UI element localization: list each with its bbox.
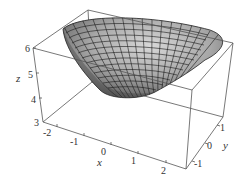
y-tick-0: 0 <box>207 140 212 151</box>
y-axis-label: y <box>222 139 228 151</box>
surface-plot: 6 5 4 3 z -2 -1 0 1 2 x -1 0 1 y <box>0 0 247 186</box>
z-tick-4: 4 <box>31 94 36 105</box>
plot-canvas: 6 5 4 3 z -2 -1 0 1 2 x -1 0 1 y <box>0 0 247 186</box>
x-tick-2: 2 <box>161 165 166 176</box>
z-axis-label: z <box>15 72 21 84</box>
x-tick-neg2: -2 <box>43 127 51 138</box>
z-tick-3: 3 <box>34 117 39 128</box>
paraboloid-surface <box>63 15 223 98</box>
x-tick-1: 1 <box>131 155 136 166</box>
y-tick-neg1: -1 <box>194 158 202 169</box>
y-axis <box>192 125 220 162</box>
z-tick-6: 6 <box>25 43 30 54</box>
x-axis-label: x <box>96 156 102 168</box>
z-tick-5: 5 <box>28 69 33 80</box>
y-tick-1: 1 <box>220 122 225 133</box>
x-tick-neg1: -1 <box>70 136 78 147</box>
